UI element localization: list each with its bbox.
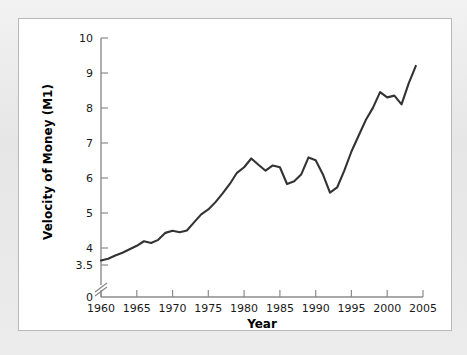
- y-tick-label-4: 4: [86, 242, 93, 255]
- x-tick-label-1960: 1960: [87, 302, 115, 315]
- y-tick-marks: [101, 38, 108, 265]
- x-tick-marks: [101, 290, 423, 297]
- y-axis-title: Velocity of Money (M1): [41, 84, 55, 240]
- x-tick-label-1990: 1990: [302, 302, 330, 315]
- x-tick-label-1975: 1975: [194, 302, 222, 315]
- x-axis-title: Year: [246, 317, 277, 330]
- x-tick-label-1965: 1965: [123, 302, 151, 315]
- y-tick-label-8: 8: [86, 102, 93, 115]
- x-tick-label-1970: 1970: [159, 302, 187, 315]
- y-tick-label-10: 10: [79, 32, 93, 45]
- y-tick-label-6: 6: [86, 172, 93, 185]
- y-tick-label-3point5: 3.5: [76, 259, 94, 272]
- x-tick-label-1995: 1995: [337, 302, 365, 315]
- x-tick-label-1985: 1985: [266, 302, 294, 315]
- y-tick-label-5: 5: [86, 207, 93, 220]
- x-tick-label-2005: 2005: [409, 302, 437, 315]
- velocity-of-money-line-chart: 10 9 8 7 6 5 4 3.5 0 1960: [19, 19, 451, 330]
- x-tick-label-2000: 2000: [373, 302, 401, 315]
- velocity-series-line: [101, 66, 416, 261]
- x-tick-label-1980: 1980: [230, 302, 258, 315]
- figure-frame: 10 9 8 7 6 5 4 3.5 0 1960: [0, 0, 467, 355]
- y-tick-label-7: 7: [86, 137, 93, 150]
- y-tick-label-9: 9: [86, 67, 93, 80]
- plot-panel: 10 9 8 7 6 5 4 3.5 0 1960: [18, 18, 452, 331]
